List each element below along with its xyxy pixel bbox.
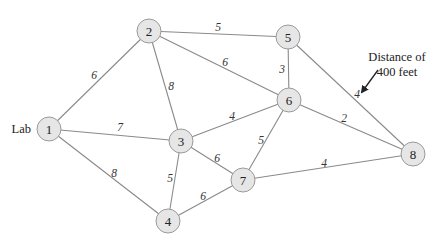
arrow-icon: [362, 70, 378, 92]
node-label: 1: [46, 122, 53, 137]
node-2: 2: [137, 19, 161, 43]
annotation-line-2: 400 feet: [377, 65, 418, 79]
lab-label: Lab: [12, 122, 31, 136]
edge-weight-1-4: 8: [111, 167, 117, 179]
edge-2-3: [149, 31, 181, 141]
edge-weight-5-8: 4: [354, 88, 360, 100]
edge-7-8: [243, 154, 413, 180]
edge-3-6: [181, 100, 289, 141]
node-6: 6: [277, 88, 301, 112]
node-4: 4: [156, 209, 180, 233]
network-diagram: 678856465634524 12345678 Lab Distance of…: [0, 0, 445, 246]
edge-weight-2-3: 8: [168, 80, 174, 92]
node-label: 7: [240, 173, 247, 188]
edges-layer: [49, 31, 413, 221]
node-label: 2: [146, 24, 153, 39]
edge-weight-6-8: 2: [341, 112, 347, 124]
edge-weight-4-7: 6: [200, 190, 206, 202]
edge-1-2: [49, 31, 149, 129]
node-7: 7: [231, 168, 255, 192]
node-label: 5: [285, 30, 292, 45]
node-1: 1: [37, 117, 61, 141]
nodes-layer: 12345678: [37, 19, 425, 233]
node-8: 8: [401, 142, 425, 166]
edge-1-4: [49, 129, 168, 221]
edge-weight-1-3: 7: [117, 121, 124, 133]
edge-weight-7-8: 4: [321, 157, 327, 169]
node-label: 8: [410, 147, 417, 162]
edge-weight-2-5: 5: [215, 21, 221, 33]
node-label: 4: [165, 214, 172, 229]
edge-1-3: [49, 129, 181, 141]
node-5: 5: [276, 25, 300, 49]
node-3: 3: [169, 129, 193, 153]
edge-weight-6-7: 5: [258, 134, 264, 146]
edge-weight-5-6: 3: [278, 63, 285, 75]
edge-6-7: [243, 100, 289, 180]
annotation-line-1: Distance of: [368, 50, 426, 64]
distance-annotation: Distance of 400 feet: [362, 50, 426, 92]
edge-weight-3-7: 6: [214, 152, 220, 164]
edge-weight-3-4: 5: [167, 172, 173, 184]
edge-6-8: [289, 100, 413, 154]
node-label: 3: [178, 134, 185, 149]
node-label: 6: [286, 93, 293, 108]
edge-weight-2-6: 6: [222, 56, 228, 68]
edge-weight-3-6: 4: [229, 110, 235, 122]
edge-weight-1-2: 6: [91, 69, 97, 81]
